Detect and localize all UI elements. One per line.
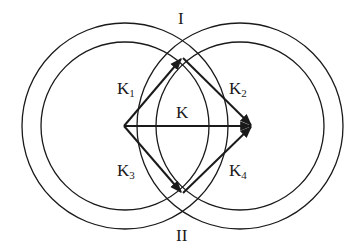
- label-k3-sub: 3: [129, 169, 135, 181]
- label-k2-sub: 2: [241, 87, 247, 99]
- vector-k4: [183, 127, 251, 193]
- label-k: K: [176, 104, 188, 121]
- region-label-bottom: II: [176, 227, 187, 244]
- label-k3-main: K: [117, 161, 129, 180]
- label-k1-main: K: [117, 79, 129, 98]
- label-k2-main: K: [229, 79, 241, 98]
- vector-diagram: I II K K1 K2 K3 K4: [0, 0, 363, 249]
- label-k1-sub: 1: [129, 87, 135, 99]
- label-k4-main: K: [229, 161, 241, 180]
- label-k4: K4: [229, 162, 247, 181]
- vector-k3: [124, 126, 181, 192]
- region-label-top: I: [178, 10, 184, 27]
- label-k1: K1: [117, 80, 135, 99]
- label-k2: K2: [229, 80, 247, 99]
- diagram-canvas: [0, 0, 363, 249]
- label-k4-sub: 4: [241, 169, 247, 181]
- label-k3: K3: [117, 162, 135, 181]
